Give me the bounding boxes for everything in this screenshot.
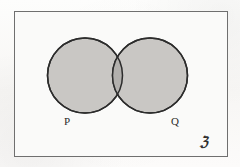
set-label-p: P [64, 116, 70, 127]
venn-diagram-canvas: P Q ℨ [0, 0, 240, 167]
set-label-q: Q [171, 116, 179, 127]
universal-set-symbol: ℨ [200, 135, 208, 148]
